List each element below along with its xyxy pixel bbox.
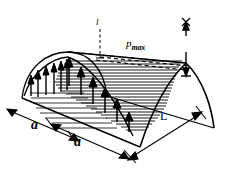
span-right-label: a — [74, 135, 81, 149]
span-left-label: a — [31, 118, 38, 132]
length-label: L — [160, 110, 167, 122]
height-tick-dashed — [96, 29, 104, 58]
barrel-vault-pressure-diagram — [0, 0, 227, 172]
figure-container: pmax a a L l — [0, 0, 227, 172]
left-flank-grid — [30, 93, 117, 128]
pmax-label: pmax — [126, 38, 145, 52]
left-eave-line — [22, 98, 140, 147]
pmax-subscript: max — [132, 43, 146, 52]
dimension-line-span-left — [7, 109, 79, 143]
pmax-dimension-arrow — [181, 22, 191, 76]
height-label: l — [96, 18, 99, 27]
